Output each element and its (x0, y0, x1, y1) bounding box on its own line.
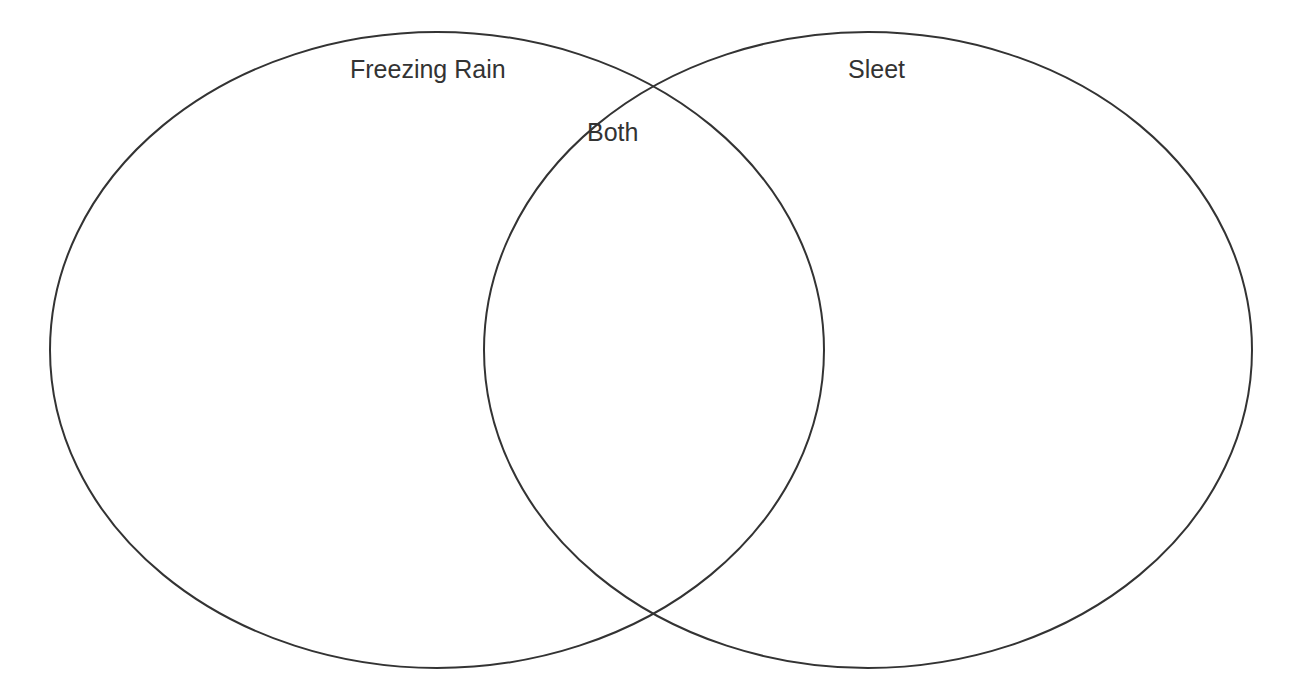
both-label: Both (587, 118, 638, 146)
sleet-label: Sleet (848, 55, 905, 83)
venn-diagram: Freezing Rain Sleet Both (0, 0, 1291, 699)
freezing-rain-circle (50, 32, 824, 668)
freezing-rain-label: Freezing Rain (350, 55, 506, 83)
